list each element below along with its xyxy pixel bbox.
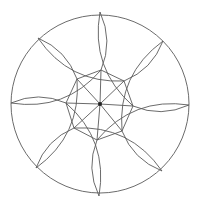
- spoke-line: [100, 70, 101, 104]
- rosette-svg: [0, 0, 198, 210]
- spoke-line: [100, 104, 122, 131]
- spoke-line: [74, 104, 100, 128]
- petal-arc: [11, 97, 66, 103]
- center-dot: [98, 102, 102, 106]
- petal-arc: [38, 38, 77, 79]
- rosette-diagram: [0, 0, 198, 210]
- spoke-line: [97, 104, 100, 140]
- petal-arc: [66, 103, 101, 196]
- petal-arc: [100, 12, 107, 70]
- petal-arc: [124, 41, 163, 81]
- spoke-line: [66, 103, 100, 104]
- petal-arc: [92, 140, 99, 196]
- spoke-line: [100, 104, 133, 106]
- petal-arc: [122, 131, 162, 171]
- petal-arc: [36, 128, 74, 168]
